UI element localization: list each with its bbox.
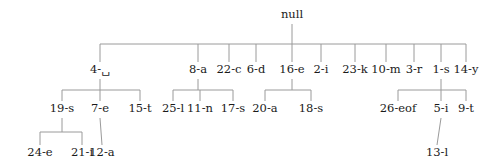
tree-node: 8-a [189, 64, 207, 76]
tree-node: 3-r [406, 64, 423, 76]
tree-node: 7-e [91, 103, 109, 115]
tree-node: 5-i [434, 103, 449, 115]
tree-node: 1-s [432, 64, 449, 76]
tree-diagram: null4-␣19-s24-e21-i7-e12-a15-t8-a25-l11-… [0, 0, 495, 167]
tree-node: 16-e [279, 64, 304, 76]
tree-edge [437, 118, 441, 145]
tree-node: 19-s [50, 103, 74, 115]
tree-node: 23-k [342, 64, 368, 76]
tree-edges [0, 0, 495, 167]
tree-node: 9-t [458, 103, 474, 115]
tree-node: 12-a [89, 147, 114, 159]
tree-node: 22-c [217, 64, 242, 76]
tree-node: 11-n [187, 103, 213, 115]
tree-node: 25-l [162, 103, 184, 115]
tree-edge [100, 118, 102, 145]
tree-node: 10-m [371, 64, 400, 76]
tree-node: 15-t [128, 103, 151, 115]
tree-node: 14-y [453, 64, 478, 76]
tree-node: 20-a [252, 103, 277, 115]
tree-node: 18-s [299, 103, 323, 115]
tree-node: 13-l [426, 147, 448, 159]
tree-node: 6-d [247, 64, 266, 76]
tree-node: 24-e [27, 147, 52, 159]
tree-node: 2-i [314, 64, 329, 76]
tree-node: 17-s [221, 103, 245, 115]
tree-node: null [281, 9, 303, 21]
tree-node: 4-␣ [90, 64, 110, 76]
tree-node: 26-eof [380, 103, 417, 115]
